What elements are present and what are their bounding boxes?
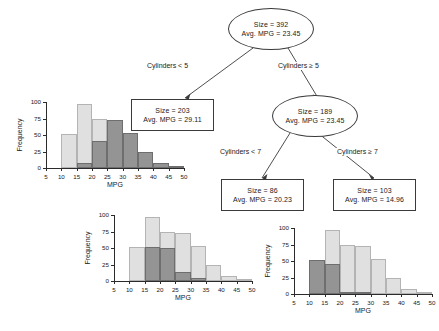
- tree-node-right-leaf[interactable]: Size = 103 Avg. MPG = 14.96: [333, 179, 416, 211]
- histogram-bar-subset: [309, 260, 324, 294]
- tree-node-left-leaf[interactable]: Size = 203 Avg. MPG = 29.11: [131, 99, 214, 131]
- x-axis-title: MPG: [114, 294, 252, 302]
- histogram-bar-subset: [123, 133, 138, 168]
- figure-canvas: Size = 392 Avg. MPG = 23.45 Size = 203 A…: [0, 0, 439, 331]
- y-axis-tick: [111, 281, 114, 282]
- x-axis-tick: [371, 294, 372, 297]
- y-axis-tick: [291, 278, 294, 279]
- x-axis-tick: [184, 168, 185, 171]
- x-axis-tick: [169, 168, 170, 171]
- x-axis-tick: [432, 294, 433, 297]
- x-axis-tick: [129, 281, 130, 284]
- x-axis-tick: [61, 168, 62, 171]
- histogram-bar-subset: [92, 141, 107, 168]
- x-axis-tick: [355, 294, 356, 297]
- x-axis-tick: [401, 294, 402, 297]
- histogram-right-leaf: 51015202530354045500255075100MPGFrequenc…: [258, 222, 438, 320]
- branch-label-split1-left: Cylinders < 5: [146, 62, 189, 70]
- histogram-bar-all: [206, 265, 221, 282]
- y-axis-tick: [43, 152, 46, 153]
- x-axis-title: MPG: [294, 307, 432, 315]
- y-axis-tick: [43, 102, 46, 103]
- y-axis-tick: [291, 228, 294, 229]
- y-axis-tick: [111, 265, 114, 266]
- y-axis-tick: [43, 119, 46, 120]
- x-axis-line: [114, 281, 252, 282]
- x-axis-line: [294, 294, 432, 295]
- x-axis-tick: [237, 281, 238, 284]
- x-axis-tick-label: 50: [172, 173, 196, 180]
- x-axis-tick: [206, 281, 207, 284]
- histogram-bar-all: [61, 134, 76, 168]
- branch-label-split2-left: Cylinders < 7: [219, 148, 262, 156]
- histogram-bar-subset: [145, 247, 160, 281]
- y-axis-line: [114, 215, 115, 281]
- x-axis-tick: [191, 281, 192, 284]
- mid-leaf-size-label: Size = 86: [247, 186, 277, 195]
- tree-node-root[interactable]: Size = 392 Avg. MPG = 23.45: [228, 8, 314, 50]
- right-leaf-size-label: Size = 103: [357, 186, 391, 195]
- y-axis-tick: [111, 215, 114, 216]
- x-axis-tick: [417, 294, 418, 297]
- y-axis-title: Frequency: [264, 228, 272, 294]
- y-axis-tick: [43, 135, 46, 136]
- y-axis-tick: [111, 248, 114, 249]
- x-axis-tick: [153, 168, 154, 171]
- x-axis-title: MPG: [46, 181, 184, 189]
- histogram-bar-subset: [175, 272, 190, 281]
- histogram-bar-subset: [160, 248, 175, 281]
- histogram-bar-subset: [107, 120, 122, 168]
- x-axis-tick: [92, 168, 93, 171]
- branch-label-split2-right: Cylinders ≥ 7: [336, 148, 379, 156]
- tree-node-right-internal[interactable]: Size = 189 Avg. MPG = 23.45: [272, 95, 358, 137]
- y-axis-line: [294, 228, 295, 294]
- y-axis-tick: [291, 245, 294, 246]
- x-axis-tick-label: 50: [420, 299, 439, 306]
- y-axis-tick: [43, 168, 46, 169]
- x-axis-tick: [107, 168, 108, 171]
- y-axis-title: Frequency: [84, 215, 92, 281]
- x-axis-tick: [114, 281, 115, 284]
- x-axis-tick: [221, 281, 222, 284]
- x-axis-tick: [175, 281, 176, 284]
- y-axis-title: Frequency: [16, 102, 24, 168]
- histogram-bar-all: [340, 245, 355, 294]
- x-axis-tick: [160, 281, 161, 284]
- histogram-bar-all: [355, 246, 370, 294]
- x-axis-tick: [252, 281, 253, 284]
- branch-label-split1-right: Cylinders ≥ 5: [277, 62, 320, 70]
- x-axis-tick: [309, 294, 310, 297]
- mid-leaf-mpg-label: Avg. MPG = 20.23: [233, 195, 292, 204]
- x-axis-tick: [340, 294, 341, 297]
- right-internal-size-label: Size = 189: [298, 107, 332, 116]
- histogram-bar-all: [191, 246, 206, 281]
- histogram-bar-subset: [138, 152, 153, 169]
- tree-node-mid-leaf[interactable]: Size = 86 Avg. MPG = 20.23: [221, 179, 304, 211]
- histogram-bar-subset: [325, 264, 340, 294]
- x-axis-tick: [294, 294, 295, 297]
- root-size-label: Size = 392: [254, 20, 288, 29]
- left-leaf-mpg-label: Avg. MPG = 29.11: [143, 115, 201, 124]
- histogram-bar-all: [386, 278, 401, 295]
- y-axis-tick: [291, 294, 294, 295]
- root-mpg-label: Avg. MPG = 23.45: [242, 29, 301, 38]
- y-axis-tick: [111, 232, 114, 233]
- right-leaf-mpg-label: Avg. MPG = 14.96: [345, 195, 404, 204]
- x-axis-tick: [77, 168, 78, 171]
- x-axis-tick: [123, 168, 124, 171]
- histogram-bar-all: [371, 259, 386, 294]
- histogram-bar-all: [129, 247, 144, 281]
- right-internal-mpg-label: Avg. MPG = 23.45: [286, 116, 345, 125]
- histogram-mid-leaf: 51015202530354045500255075100MPGFrequenc…: [78, 209, 258, 307]
- x-axis-tick: [145, 281, 146, 284]
- left-leaf-size-label: Size = 203: [155, 106, 189, 115]
- x-axis-tick: [46, 168, 47, 171]
- x-axis-tick: [138, 168, 139, 171]
- x-axis-tick: [386, 294, 387, 297]
- y-axis-tick: [291, 261, 294, 262]
- x-axis-line: [46, 168, 184, 169]
- histogram-bar-all: [77, 104, 92, 168]
- x-axis-tick: [325, 294, 326, 297]
- y-axis-line: [46, 102, 47, 168]
